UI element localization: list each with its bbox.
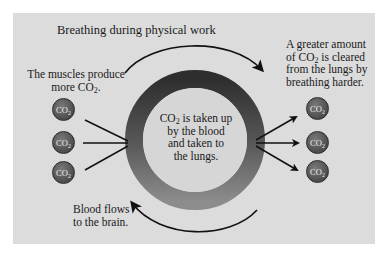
top-flow-arrow — [125, 46, 262, 73]
co2-molecule-left-2: CO2 — [52, 131, 75, 154]
co2-molecule-right-1: CO2 — [306, 97, 329, 120]
muscle-co2-lines — [83, 120, 128, 170]
muscles-label: The muscles produce more CO2. — [20, 68, 132, 93]
co2-molecule-right-2: CO2 — [306, 131, 329, 154]
co2-molecule-left-3: CO2 — [52, 161, 75, 184]
diagram-title: Breathing during physical work — [57, 24, 216, 37]
blood-transport-label: CO2 is taken up by the blood and taken t… — [150, 112, 242, 162]
co2-molecule-right-3: CO2 — [306, 160, 329, 183]
lungs-label: A greater amount of CO2 is cleared from … — [286, 38, 384, 88]
co2-molecule-left-1: CO2 — [52, 98, 75, 121]
brain-flow-label: Blood flows to the brain. — [73, 203, 130, 228]
